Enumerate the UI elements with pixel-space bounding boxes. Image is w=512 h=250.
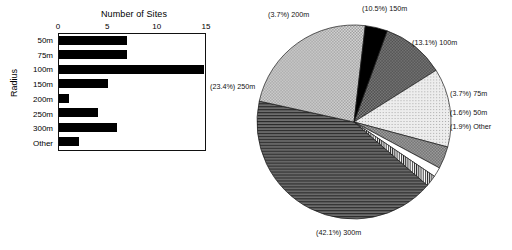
bar-50m [59, 36, 127, 45]
pie-label-75m: (3.7%) 75m [450, 89, 487, 98]
pie-label-50m: (1.6%) 50m [450, 108, 487, 117]
bar-row [59, 136, 205, 151]
bar-200m [59, 94, 69, 103]
bar-other [59, 137, 79, 146]
x-tick-10: 10 [152, 22, 161, 31]
y-label-150m: 150m [14, 77, 56, 92]
bar-plot-area [58, 33, 206, 151]
bar-row [59, 107, 205, 122]
bar-chart-title: Number of Sites [58, 9, 210, 19]
x-tick-5: 5 [105, 22, 109, 31]
y-label-100m: 100m [14, 63, 56, 78]
y-label-200m: 200m [14, 92, 56, 107]
bar-row [59, 63, 205, 78]
pie-label-other: (1.9%) Other [450, 122, 491, 131]
bar-row [59, 49, 205, 64]
bar-y-axis-labels: 50m 75m 100m 150m 200m 250m 300m Other [14, 33, 56, 151]
pie-graphic [255, 23, 453, 221]
pie-label-100m: (13.1%) 100m [412, 38, 457, 47]
bar-75m [59, 50, 127, 59]
figure-container: Number of Sites 0 5 10 15 Radius 50m 75m… [0, 0, 512, 250]
pie-svg [255, 23, 453, 221]
x-tick-0: 0 [56, 22, 60, 31]
x-tick-15: 15 [202, 22, 211, 31]
pie-chart: (3.7%) 200m (10.5%) 150m (13.1%) 100m (3… [222, 0, 512, 250]
pie-label-300m: (42.1%) 300m [316, 228, 361, 237]
pie-label-150m: (10.5%) 150m [362, 4, 407, 13]
pie-slice-group [257, 25, 451, 219]
bar-250m [59, 108, 98, 117]
bar-300m [59, 123, 117, 132]
bar-150m [59, 79, 108, 88]
pie-label-200m: (3.7%) 200m [268, 10, 309, 19]
y-label-other: Other [14, 136, 56, 151]
bar-row [59, 34, 205, 49]
y-label-75m: 75m [14, 48, 56, 63]
y-label-250m: 250m [14, 107, 56, 122]
bar-100m [59, 65, 204, 74]
pie-label-250m: (23.4%) 250m [210, 82, 255, 91]
bar-row [59, 78, 205, 93]
y-label-300m: 300m [14, 122, 56, 137]
bar-row [59, 92, 205, 107]
y-label-50m: 50m [14, 33, 56, 48]
bar-chart: Number of Sites 0 5 10 15 Radius 50m 75m… [0, 0, 215, 175]
bar-row [59, 121, 205, 136]
